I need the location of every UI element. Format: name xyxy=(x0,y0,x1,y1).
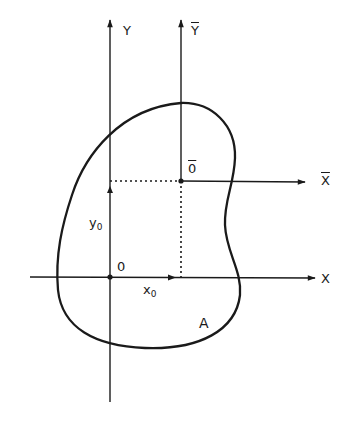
region-a-outline xyxy=(57,103,240,348)
y0-subscript: 0 xyxy=(97,222,103,232)
x-bar-axis xyxy=(181,181,305,182)
centroid-point xyxy=(178,178,183,183)
y-bar-axis-label: Y xyxy=(191,24,199,37)
y-axis-label: Y xyxy=(123,24,131,37)
y0-base: y xyxy=(89,215,97,230)
x-bar-axis-label: X xyxy=(321,174,330,187)
region-a-label: A xyxy=(199,316,209,330)
centroid-label: 0 xyxy=(188,162,196,175)
diagram-canvas xyxy=(0,0,358,430)
x0-arrowhead xyxy=(168,275,176,281)
origin-point xyxy=(107,274,112,279)
y0-arrowhead xyxy=(107,186,113,193)
x-axis-label: X xyxy=(321,272,330,285)
x0-label: x0 xyxy=(143,283,156,296)
y0-label: y0 xyxy=(89,216,102,229)
origin-label: 0 xyxy=(117,260,125,273)
x0-base: x xyxy=(143,282,151,297)
x0-subscript: 0 xyxy=(151,289,157,299)
